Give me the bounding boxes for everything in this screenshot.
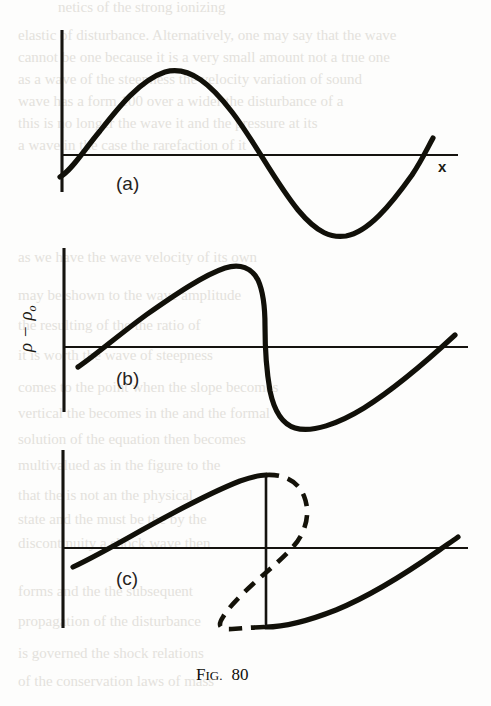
svg-text:it is worth the wave of steepn: it is worth the wave of steepness (18, 347, 213, 363)
svg-text:elastic of disturbance. Altern: elastic of disturbance. Alternatively, o… (18, 27, 397, 43)
figure-80-svg: netics of the strong ionizing elastic of… (0, 0, 491, 706)
figure-caption: FIG.80 (196, 665, 248, 684)
panel-c-label: (c) (116, 568, 138, 589)
panel-b-label: (b) (116, 368, 139, 389)
svg-text:may be shown to the wave ampli: may be shown to the wave amplitude (18, 287, 242, 303)
caption-smallcaps: IG. (205, 668, 222, 683)
svg-text:forms and the the subsequent: forms and the the subsequent (18, 583, 194, 599)
svg-text:wave has a form 100 over a wid: wave has a form 100 over a wider the dis… (18, 93, 344, 109)
svg-text:multivalued as in the figure t: multivalued as in the figure to the (18, 457, 221, 473)
panel-a-x-axis-label: x (438, 158, 447, 175)
svg-text:propagation of the disturbance: propagation of the disturbance (18, 613, 201, 629)
svg-text:the resulting of the the ratio: the resulting of the the ratio of (18, 317, 200, 333)
y-axis-label: ρ − ρo (15, 305, 39, 353)
figure-container: netics of the strong ionizing elastic of… (0, 0, 491, 706)
svg-text:that the is not an the physica: that the is not an the physical (18, 487, 193, 503)
page-bleed-through-ghost: netics of the strong ionizing elastic of… (0, 0, 491, 706)
svg-text:vertical the becomes in the an: vertical the becomes in the and the form… (18, 405, 270, 421)
svg-text:is governed the shock relation: is governed the shock relations (18, 645, 204, 661)
y-axis-label-main: ρ − ρ (15, 311, 36, 353)
caption-number: 80 (231, 665, 248, 684)
y-axis-label-subscript: o (25, 305, 39, 311)
svg-text:of the conservation laws of ma: of the conservation laws of mass (18, 673, 214, 689)
svg-text:netics of the strong ionizing: netics of the strong ionizing (58, 0, 226, 15)
svg-text:a wave in the case the rarefac: a wave in the case the rarefaction of it (18, 137, 247, 153)
svg-text:FIG.80: FIG.80 (196, 665, 248, 684)
svg-text:comes to the point when the sl: comes to the point when the slope become… (18, 379, 279, 395)
svg-text:cannot be one because it is a: cannot be one because it is a very small… (18, 49, 390, 65)
caption-prefix: F (196, 665, 205, 684)
panel-a-label: (a) (116, 173, 139, 194)
svg-text:as we have the wave velocity o: as we have the wave velocity of its own (18, 249, 258, 265)
svg-text:state and the must be the by t: state and the must be the by the (18, 511, 207, 527)
svg-text:ρ − ρo: ρ − ρo (15, 305, 39, 353)
svg-text:solution of the equation then: solution of the equation then becomes (18, 431, 246, 447)
